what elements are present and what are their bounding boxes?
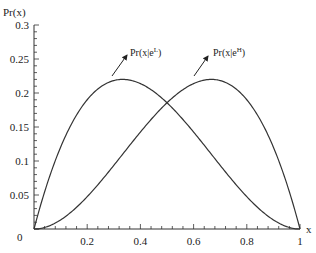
y-axis-title: Pr(x) [3,6,26,19]
x-tick-label: 0.4 [134,235,148,247]
x-tick-label: 0.6 [187,235,201,247]
legend-label-eH: Pr(x|eH) [213,46,245,59]
y-tick-label: 0.3 [15,19,29,31]
x-tick-label: 1 [297,235,303,247]
origin-label: 0 [17,231,23,243]
curve-pr-x-given-eH [34,79,300,229]
y-tick-label: 0.25 [10,53,30,65]
y-tick-label: 0.05 [10,189,30,201]
y-axis-ticks: 0.050.10.150.20.250.3 [10,19,39,229]
curve-pr-x-given-eL [34,79,300,229]
arrow-icon-eH [194,56,208,76]
arrow-icon-eL [112,55,127,76]
x-tick-label: 0.8 [240,235,254,247]
x-axis-ticks: 0.20.40.60.81 [45,224,303,247]
y-tick-label: 0.2 [15,87,29,99]
legend-label-eL: Pr(x|eL) [130,46,161,59]
x-axis-title: x [306,223,312,235]
x-tick-label: 0.2 [80,235,94,247]
y-tick-label: 0.1 [15,155,29,167]
y-tick-label: 0.15 [10,121,30,133]
chart-canvas: 0.050.10.150.20.250.3 0.20.40.60.81 Pr(x… [0,0,316,253]
